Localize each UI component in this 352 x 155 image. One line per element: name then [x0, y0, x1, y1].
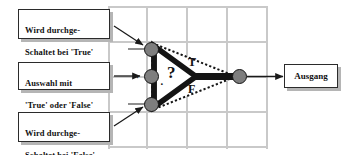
true-input-node[interactable]: [144, 42, 159, 57]
callout-false-line1: Wird durchge-: [25, 128, 103, 139]
output-box[interactable]: Ausgang: [284, 64, 338, 88]
output-label: Ausgang: [294, 71, 328, 81]
selector-terminal-marker: ·: [136, 74, 139, 80]
callout-true-line1: Wird durchge-: [25, 25, 103, 36]
diagram-canvas: ? T F · · Wird durchge- Schaltet bei 'Tr…: [0, 0, 352, 155]
callout-false-input[interactable]: Wird durchge- Schaltet bei 'False': [18, 112, 110, 142]
grid-line-horizontal: [108, 146, 268, 148]
callout-selector-line2: 'True' oder 'False': [25, 100, 103, 111]
selector-node[interactable]: [144, 69, 159, 84]
output-node[interactable]: [232, 69, 247, 84]
false-input-node[interactable]: [144, 97, 159, 112]
true-branch-label: T: [188, 56, 196, 68]
callout-false-line2: Schaltet bei 'False': [25, 150, 103, 155]
callout-true-input[interactable]: Wird durchge- Schaltet bei 'True': [18, 9, 110, 39]
question-mark-glyph: ?: [167, 64, 176, 81]
callout-selector-line1: Auswahl mit: [25, 78, 103, 89]
dot-marker-glyph: ·: [160, 81, 164, 87]
callout-selector[interactable]: Auswahl mit 'True' oder 'False': [18, 62, 110, 90]
grid-line-horizontal: [108, 6, 268, 8]
false-branch-label: F: [188, 83, 195, 95]
callout-true-line2: Schaltet bei 'True': [25, 47, 103, 58]
